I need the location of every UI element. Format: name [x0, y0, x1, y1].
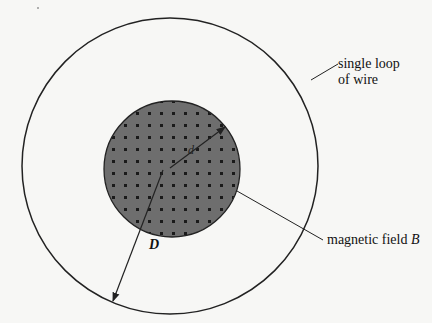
inner-diameter-label: d [188, 142, 194, 158]
loop-label-line1: single loop [338, 56, 400, 72]
loop-leader-line [311, 64, 338, 80]
diagram-canvas [0, 0, 432, 323]
stray-dot [37, 7, 39, 9]
magnetic-field-region [104, 101, 240, 237]
field-label-text: magnetic field [327, 232, 411, 247]
loop-label: single loop of wire [338, 56, 400, 88]
loop-label-line2: of wire [338, 72, 400, 88]
outer-diameter-label: D [149, 237, 159, 253]
field-label: magnetic field B [327, 232, 420, 248]
field-symbol: B [411, 232, 420, 247]
